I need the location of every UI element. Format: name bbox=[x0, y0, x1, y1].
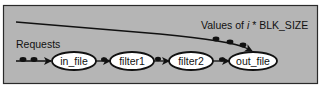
pipeline-diagram: Values of i * BLK_SIZE Requests in_file bbox=[0, 0, 326, 93]
data-token-icon bbox=[31, 57, 38, 62]
values-label-suffix: * BLK_SIZE bbox=[249, 19, 308, 31]
data-token-icon bbox=[227, 40, 234, 45]
node-label: out_file bbox=[236, 55, 270, 67]
data-token-icon bbox=[240, 43, 247, 48]
data-token-icon bbox=[213, 37, 220, 42]
node-label: filter1 bbox=[119, 55, 145, 67]
data-token-icon bbox=[20, 57, 27, 62]
node-label: filter2 bbox=[178, 55, 204, 67]
data-token-icon bbox=[101, 57, 107, 61]
node-filter1: filter1 bbox=[110, 52, 154, 70]
data-token-icon bbox=[155, 57, 161, 61]
node-filter2: filter2 bbox=[169, 52, 213, 70]
values-label-prefix: Values of bbox=[201, 19, 247, 31]
data-token-icon bbox=[219, 57, 225, 61]
node-label: in_file bbox=[60, 55, 88, 67]
node-out-file: out_file bbox=[229, 52, 277, 70]
values-label: Values of i * BLK_SIZE bbox=[201, 19, 308, 31]
node-in-file: in_file bbox=[52, 52, 96, 70]
diagram-canvas: Values of i * BLK_SIZE Requests in_file bbox=[0, 0, 326, 93]
requests-label: Requests bbox=[16, 38, 60, 50]
